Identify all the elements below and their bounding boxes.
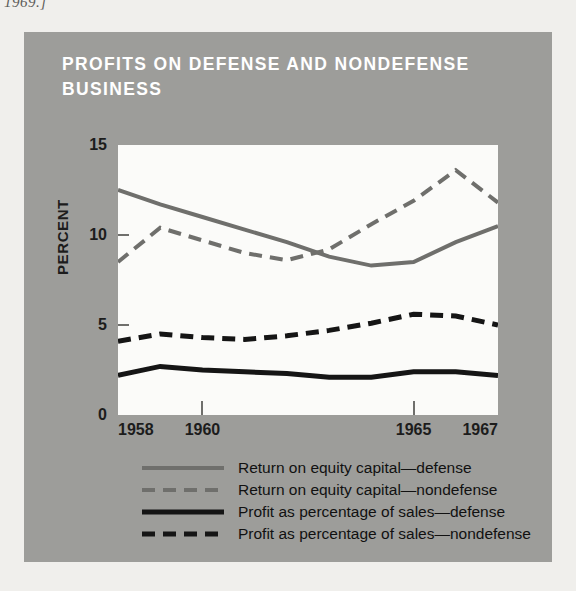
y-axis-tick-label: 5 (98, 316, 107, 334)
y-axis-tick-label: 10 (89, 226, 107, 244)
legend-swatch-gray-dash (142, 483, 224, 497)
x-axis-tick-label: 1967 (462, 421, 498, 439)
figure-title: PROFITS ON DEFENSE AND NONDEFENSE BUSINE… (62, 52, 482, 102)
chart-series-svg (118, 145, 498, 415)
y-axis-title: PERCENT (54, 199, 71, 275)
chart-series-line (118, 366, 498, 377)
legend-row: Profit as percentage of sales—defense (142, 501, 542, 523)
legend-label: Return on equity capital—nondefense (238, 481, 497, 499)
page-header-fragment: 1969.] (4, 0, 47, 11)
x-axis-tick-label: 1960 (185, 421, 221, 439)
legend-label: Profit as percentage of sales—defense (238, 503, 505, 521)
legend-row: Return on equity capital—defense (142, 457, 542, 479)
legend-swatch-gray-solid (142, 461, 224, 475)
y-axis-tick-label: 0 (98, 406, 107, 424)
chart-series-line (118, 314, 498, 341)
x-axis-tick-label: 1958 (118, 421, 154, 439)
y-axis-tick-label: 15 (89, 136, 107, 154)
chart-series-line (118, 190, 498, 266)
legend-row: Return on equity capital—nondefense (142, 479, 542, 501)
legend-swatch-black-dash (142, 527, 224, 541)
legend-swatch-black-solid (142, 505, 224, 519)
y-axis-tick-mark (118, 324, 129, 326)
chart-legend: Return on equity capital—defenseReturn o… (142, 457, 542, 545)
figure-panel: PROFITS ON DEFENSE AND NONDEFENSE BUSINE… (24, 32, 552, 562)
y-axis-tick-mark (118, 234, 129, 236)
chart-plot-wrapper: PERCENT 051015 1958196019651967 (118, 145, 498, 415)
x-axis-tick-mark (201, 401, 203, 415)
x-axis-tick-mark (413, 401, 415, 415)
legend-row: Profit as percentage of sales—nondefense (142, 523, 542, 545)
x-axis-tick-label: 1965 (396, 421, 432, 439)
legend-label: Profit as percentage of sales—nondefense (238, 525, 531, 543)
legend-label: Return on equity capital—defense (238, 459, 472, 477)
page-root: 1969.] PROFITS ON DEFENSE AND NONDEFENSE… (0, 0, 576, 591)
